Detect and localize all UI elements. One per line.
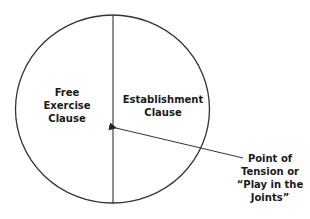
annotation-line-2: Tension or bbox=[241, 166, 299, 177]
free-exercise-line-2: Exercise bbox=[43, 100, 90, 111]
religion-clauses-diagram: Free Exercise Clause Establishment Claus… bbox=[0, 0, 310, 219]
free-exercise-line-1: Free bbox=[55, 87, 80, 98]
establishment-line-1: Establishment bbox=[123, 94, 204, 105]
free-exercise-line-3: Clause bbox=[48, 113, 86, 124]
establishment-line-2: Clause bbox=[144, 107, 182, 118]
establishment-label: Establishment Clause bbox=[123, 94, 204, 118]
annotation-line-4: Joints” bbox=[250, 192, 289, 203]
tension-annotation: Point of Tension or “Play in the Joints” bbox=[237, 153, 304, 203]
annotation-line-3: “Play in the bbox=[237, 179, 304, 190]
tension-arrow bbox=[116, 128, 243, 158]
free-exercise-label: Free Exercise Clause bbox=[43, 87, 90, 124]
annotation-line-1: Point of bbox=[248, 153, 293, 164]
